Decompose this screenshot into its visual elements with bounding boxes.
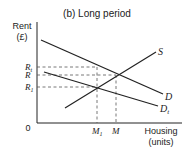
r-label: R [24, 70, 31, 80]
x-axis-unit: (units) [148, 137, 173, 147]
demand-t-label: Dt [159, 103, 170, 116]
m-label: M [111, 126, 120, 136]
diagram-title: (b) Long period [63, 8, 131, 19]
demand-t-curve [44, 72, 158, 106]
x-axis-label: Housing [144, 126, 177, 136]
r1-label: R1 [24, 82, 34, 93]
long-period-housing-diagram: (b) Long period Rent (£) 0 S D Dt Rt R R… [0, 0, 189, 156]
origin-label: 0 [25, 123, 30, 133]
supply-curve [65, 52, 156, 108]
y-axis-label: Rent [12, 21, 32, 31]
supply-label: S [158, 46, 163, 57]
m1-label: M1 [91, 126, 103, 137]
demand-label: D [164, 91, 173, 102]
y-axis-unit: (£) [17, 32, 28, 42]
